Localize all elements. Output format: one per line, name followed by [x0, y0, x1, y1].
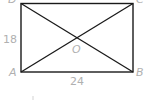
vertex-label-a: A	[9, 67, 17, 78]
center-label-o: O	[72, 44, 81, 55]
side-length-ad: 18	[3, 34, 17, 45]
side-length-ab: 24	[70, 76, 84, 87]
vertex-label-b: B	[136, 67, 144, 78]
vertex-label-d: D	[8, 0, 16, 5]
vertex-label-c: C	[136, 0, 144, 5]
